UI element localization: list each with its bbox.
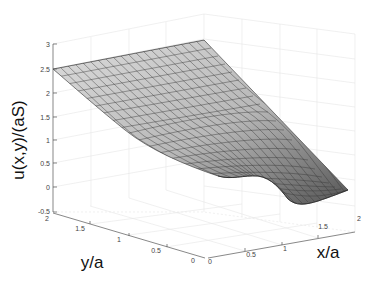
z-tick: 2 — [46, 90, 50, 97]
z-tick: 2.5 — [40, 66, 50, 73]
surface-plot: 3 2.5 2 1.5 1 0.5 0 -0.5 2 1.5 1 0.5 0 0… — [0, 0, 369, 282]
z-axis-label: u(x,y)/(aS) — [9, 100, 28, 179]
x-axis-label: x/a — [317, 243, 340, 262]
y-tick: 0.5 — [151, 247, 161, 254]
y-tick: 1.5 — [75, 225, 85, 232]
y-tick-labels: 2 1.5 1 0.5 0 — [45, 215, 195, 264]
z-tick: 0.5 — [40, 160, 50, 167]
y-tick: 1 — [117, 236, 121, 243]
x-tick: 1.5 — [318, 223, 328, 230]
y-tick: 2 — [45, 215, 49, 222]
y-axis — [53, 213, 205, 258]
z-tick: 1 — [46, 137, 50, 144]
z-axis — [53, 44, 57, 212]
x-tick: 0 — [208, 258, 212, 265]
x-tick: 2 — [357, 215, 361, 222]
y-tick: 0 — [191, 257, 195, 264]
z-tick: 0 — [46, 184, 50, 191]
z-tick: 3 — [46, 41, 50, 48]
y-axis-label: y/a — [81, 253, 104, 272]
x-tick: 0.5 — [246, 251, 256, 258]
x-tick: 1 — [283, 245, 287, 252]
z-tick-labels: 3 2.5 2 1.5 1 0.5 0 -0.5 — [38, 41, 50, 215]
z-tick: -0.5 — [38, 208, 50, 215]
surface-mesh — [53, 40, 348, 204]
z-tick: 1.5 — [40, 114, 50, 121]
